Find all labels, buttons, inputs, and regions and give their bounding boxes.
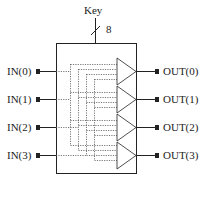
output-label-2: OUT(2) xyxy=(163,121,198,133)
input-ports xyxy=(36,69,40,158)
output-label-0: OUT(0) xyxy=(163,65,198,77)
output-wires xyxy=(136,72,156,156)
input-label-1: IN(1) xyxy=(7,93,31,105)
output-ports xyxy=(155,69,159,158)
output-label-3: OUT(3) xyxy=(163,149,198,161)
input-label-0: IN(0) xyxy=(7,65,31,77)
triangle-3 xyxy=(117,142,136,169)
buffer-triangles xyxy=(117,58,136,169)
input-wires xyxy=(38,72,56,156)
dotted-routing xyxy=(56,64,119,161)
output-label-1: OUT(1) xyxy=(163,93,198,105)
key-label: Key xyxy=(84,4,102,16)
triangle-1 xyxy=(117,86,136,113)
triangle-0 xyxy=(117,58,136,85)
input-label-3: IN(3) xyxy=(7,149,31,161)
input-label-2: IN(2) xyxy=(7,121,31,133)
bus-width-label: 8 xyxy=(106,23,112,35)
triangle-2 xyxy=(117,114,136,141)
